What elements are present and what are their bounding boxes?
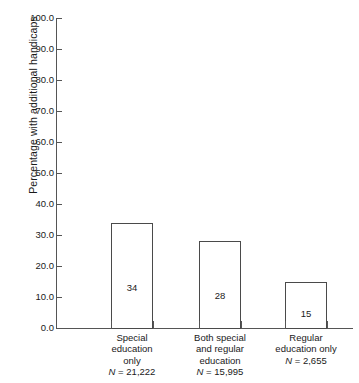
- x-axis-category-label: Both specialand regulareducationN = 15,9…: [170, 332, 270, 378]
- category-label-line: education only: [256, 343, 356, 354]
- category-label-line: only: [82, 355, 182, 366]
- x-axis-tick-mark: [241, 321, 242, 329]
- bar-value-label: 28: [200, 290, 240, 301]
- category-sample-size: N = 2,655: [256, 355, 356, 366]
- y-axis-tick: 70.0: [0, 105, 62, 117]
- y-axis-tick-mark: [57, 18, 62, 19]
- y-axis-tick-mark: [57, 266, 62, 267]
- y-axis-tick-mark: [57, 49, 62, 50]
- y-axis-tick-label: 50.0: [10, 167, 54, 179]
- y-axis-tick-mark: [57, 173, 62, 174]
- y-axis-tick-label: 20.0: [10, 260, 54, 272]
- y-axis-tick-mark: [57, 328, 62, 329]
- category-label-line: Special: [82, 332, 182, 343]
- y-axis-tick-mark: [57, 80, 62, 81]
- y-axis-tick-label: 60.0: [10, 136, 54, 148]
- category-sample-size: N = 15,995: [170, 366, 270, 377]
- y-axis-tick-label: 0.0: [10, 322, 54, 334]
- y-axis-tick-mark: [57, 142, 62, 143]
- y-axis-tick-mark: [57, 297, 62, 298]
- y-axis-tick-label: 30.0: [10, 229, 54, 241]
- y-axis-tick: 20.0: [0, 260, 62, 272]
- y-axis-tick-label: 10.0: [10, 291, 54, 303]
- category-label-line: Regular: [256, 332, 356, 343]
- category-label-line: Both special: [170, 332, 270, 343]
- plot-area: 0.010.020.030.040.050.060.070.080.090.01…: [56, 18, 353, 328]
- y-axis-tick-mark: [57, 204, 62, 205]
- bar: 15: [285, 282, 327, 330]
- y-axis-tick: 40.0: [0, 198, 62, 210]
- y-axis-tick: 80.0: [0, 74, 62, 86]
- category-sample-size: N = 21,222: [82, 366, 182, 377]
- category-label-line: education: [170, 355, 270, 366]
- y-axis-tick-label: 80.0: [10, 74, 54, 86]
- category-label-line: education: [82, 343, 182, 354]
- x-axis-tick-mark: [327, 321, 328, 329]
- y-axis-tick-label: 70.0: [10, 105, 54, 117]
- y-axis-tick-mark: [57, 235, 62, 236]
- y-axis-tick-label: 90.0: [10, 43, 54, 55]
- category-label-line: and regular: [170, 343, 270, 354]
- x-axis-tick-mark: [111, 321, 112, 329]
- y-axis-tick-label: 40.0: [10, 198, 54, 210]
- x-axis-tick-mark: [153, 321, 154, 329]
- y-axis-tick: 90.0: [0, 43, 62, 55]
- chart-figure: Percentage with additional handicaps 0.0…: [0, 0, 359, 383]
- y-axis-tick: 0.0: [0, 322, 62, 334]
- y-axis-tick: 50.0: [0, 167, 62, 179]
- y-axis-tick: 60.0: [0, 136, 62, 148]
- y-axis-tick-mark: [57, 111, 62, 112]
- y-axis-tick: 30.0: [0, 229, 62, 241]
- bar-value-label: 34: [112, 282, 152, 293]
- bar: 34: [111, 223, 153, 329]
- x-axis-tick-mark: [199, 321, 200, 329]
- bar: 28: [199, 241, 241, 329]
- x-axis-category-label: Regulareducation onlyN = 2,655: [256, 332, 356, 366]
- y-axis-tick: 10.0: [0, 291, 62, 303]
- x-axis-tick-mark: [285, 321, 286, 329]
- x-axis-category-label: SpecialeducationonlyN = 21,222: [82, 332, 182, 378]
- y-axis-tick-label: 100.0: [10, 12, 54, 24]
- bar-value-label: 15: [286, 308, 326, 319]
- y-axis-tick: 100.0: [0, 12, 62, 24]
